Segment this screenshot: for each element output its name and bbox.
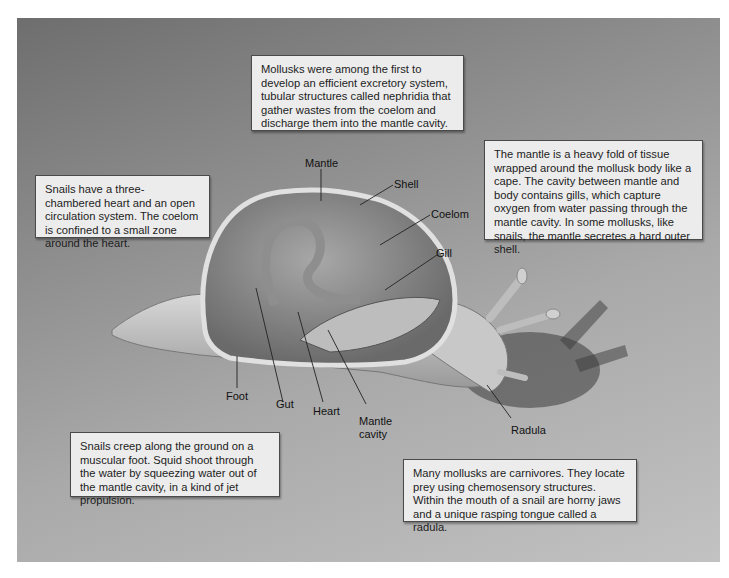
label-mantle-cavity-line1: Mantle (359, 415, 392, 427)
label-foot: Foot (226, 390, 248, 403)
callout-circulation: Snails have a three-chambered heart and … (35, 175, 210, 238)
tentacle-middle (500, 315, 550, 330)
callout-excretory: Mollusks were among the first to develop… (251, 55, 464, 131)
callout-radula: Many mollusks are carnivores. They locat… (403, 459, 637, 522)
label-mantle-cavity-line2: cavity (359, 428, 387, 440)
callout-foot: Snails creep along the ground on a muscu… (70, 432, 280, 497)
label-gut: Gut (276, 398, 294, 411)
label-heart: Heart (313, 405, 340, 418)
label-coelom: Coelom (431, 208, 469, 221)
label-mantle-cavity: Mantle cavity (359, 415, 392, 440)
callout-mantle: The mantle is a heavy fold of tissue wra… (484, 140, 703, 240)
label-mantle: Mantle (305, 157, 338, 170)
label-shell: Shell (394, 178, 418, 191)
label-radula: Radula (511, 424, 546, 437)
tentacle-upper (490, 280, 520, 318)
label-gill: Gill (436, 247, 452, 260)
